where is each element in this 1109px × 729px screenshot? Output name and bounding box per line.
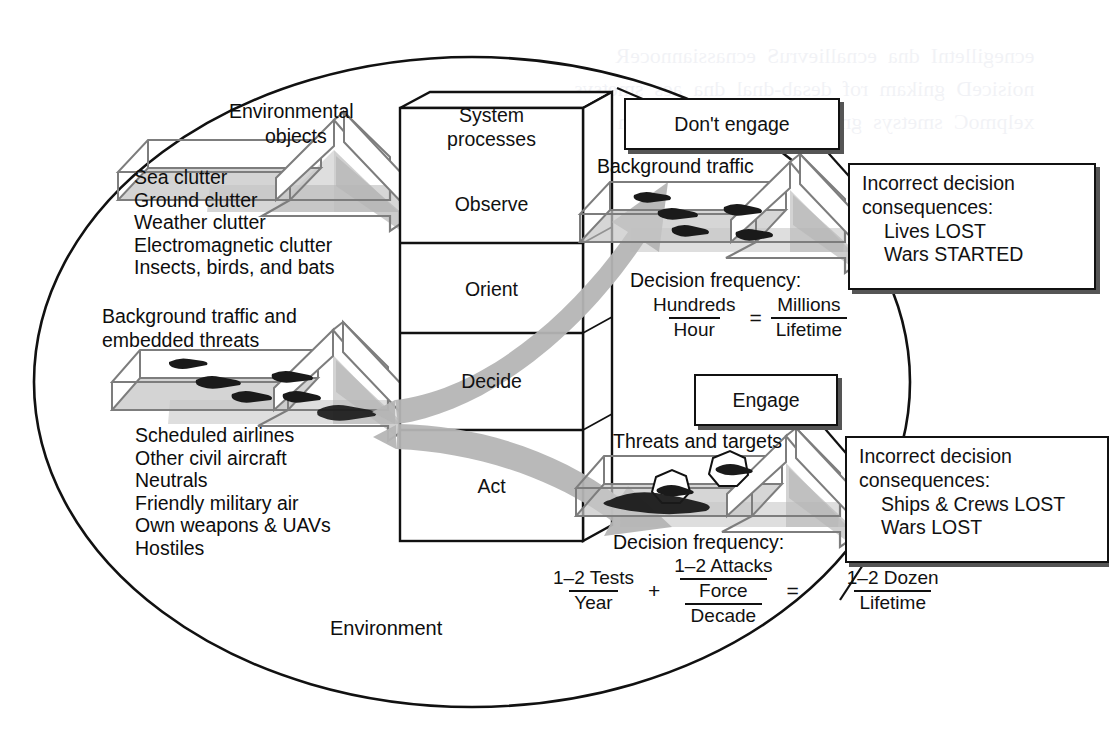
stage-observe[interactable]: Observe bbox=[400, 193, 583, 216]
upper-frequency-left: Hundreds Hour bbox=[648, 295, 740, 341]
engage-label: Engage bbox=[732, 389, 799, 412]
lower-frequency-term2-numerator: 1–2 Attacks bbox=[669, 556, 777, 578]
lower-frequency-plus: + bbox=[639, 579, 669, 603]
list-item: Neutrals bbox=[135, 469, 331, 492]
upper-frequency-left-numerator: Hundreds bbox=[648, 295, 740, 317]
environmental-objects-label-line2: objects bbox=[265, 125, 327, 148]
lower-consequences-line4: Wars LOST bbox=[859, 516, 1097, 540]
system-processes-title-line2: processes bbox=[400, 128, 583, 151]
lower-frequency-equation: 1–2 Tests Year + 1–2 Attacks Force Decad… bbox=[548, 556, 944, 627]
upper-frequency-right-denominator: Lifetime bbox=[771, 317, 848, 341]
background-traffic-input-label-line2: embedded threats bbox=[102, 329, 259, 352]
upper-frequency-right-numerator: Millions bbox=[772, 295, 845, 317]
lower-frequency-term1-numerator: 1–2 Tests bbox=[548, 568, 639, 590]
dont-engage-button[interactable]: Don't engage bbox=[624, 98, 840, 150]
system-processes-title-line1: System bbox=[400, 104, 583, 127]
background-traffic-output-label: Background traffic bbox=[597, 155, 754, 178]
lower-frequency-equals: = bbox=[777, 579, 807, 603]
upper-consequences-line4: Wars STARTED bbox=[862, 243, 1084, 267]
lower-frequency-result: 1–2 Dozen Lifetime bbox=[842, 568, 944, 614]
threats-and-targets-label: Threats and targets bbox=[613, 430, 782, 453]
list-item: Weather clutter bbox=[134, 211, 335, 234]
upper-consequences-line3: Lives LOST bbox=[862, 220, 1084, 244]
list-item: Scheduled airlines bbox=[135, 424, 331, 447]
lower-frequency-result-denominator: Lifetime bbox=[854, 590, 931, 614]
stage-orient[interactable]: Orient bbox=[400, 278, 583, 301]
list-item: Friendly military air bbox=[135, 492, 331, 515]
environmental-objects-label-line1: Environmental bbox=[229, 100, 354, 123]
environmental-objects-list: Sea clutter Ground clutter Weather clutt… bbox=[134, 166, 335, 279]
lower-frequency-term1: 1–2 Tests Year bbox=[548, 568, 639, 614]
lower-frequency-term2-denominator: Force Decade bbox=[680, 578, 768, 627]
lower-frequency-term2-denominator-numerator: Force bbox=[693, 581, 754, 603]
dont-engage-label: Don't engage bbox=[674, 113, 789, 136]
lower-consequences-line1: Incorrect decision bbox=[859, 445, 1097, 469]
lower-consequences-box: Incorrect decision consequences: Ships &… bbox=[845, 436, 1109, 563]
list-item: Sea clutter bbox=[134, 166, 335, 189]
background-traffic-list: Scheduled airlines Other civil aircraft … bbox=[135, 424, 331, 560]
lower-frequency-result-numerator: 1–2 Dozen bbox=[842, 568, 944, 590]
list-item: Other civil aircraft bbox=[135, 447, 331, 470]
lower-frequency-term1-denominator: Year bbox=[569, 590, 617, 614]
list-item: Own weapons & UAVs bbox=[135, 514, 331, 537]
upper-frequency-equation: Hundreds Hour = Millions Lifetime bbox=[648, 295, 847, 341]
upper-frequency-right: Millions Lifetime bbox=[771, 295, 848, 341]
environment-label: Environment bbox=[330, 617, 442, 640]
upper-frequency-left-denominator: Hour bbox=[669, 317, 720, 341]
upper-frequency-equals: = bbox=[740, 306, 770, 330]
list-item: Ground clutter bbox=[134, 189, 335, 212]
lower-consequences-line2: consequences: bbox=[859, 469, 1097, 493]
lower-frequency-term2-denominator-denominator: Decade bbox=[685, 603, 763, 627]
background-traffic-input-label-line1: Background traffic and bbox=[102, 305, 297, 328]
list-item: Hostiles bbox=[135, 537, 331, 560]
lower-consequences-line3: Ships & Crews LOST bbox=[859, 493, 1097, 517]
upper-decision-frequency-label: Decision frequency: bbox=[630, 269, 801, 292]
lower-frequency-term2: 1–2 Attacks Force Decade bbox=[669, 556, 777, 627]
stage-act[interactable]: Act bbox=[400, 475, 583, 498]
engage-button[interactable]: Engage bbox=[694, 374, 838, 426]
lower-decision-frequency-label: Decision frequency: bbox=[613, 531, 784, 554]
list-item: Electromagnetic clutter bbox=[134, 234, 335, 257]
upper-consequences-line2: consequences: bbox=[862, 196, 1084, 220]
upper-consequences-line1: Incorrect decision bbox=[862, 172, 1084, 196]
upper-consequences-box: Incorrect decision consequences: Lives L… bbox=[848, 163, 1096, 290]
stage-decide[interactable]: Decide bbox=[400, 370, 583, 393]
list-item: Insects, birds, and bats bbox=[134, 256, 335, 279]
